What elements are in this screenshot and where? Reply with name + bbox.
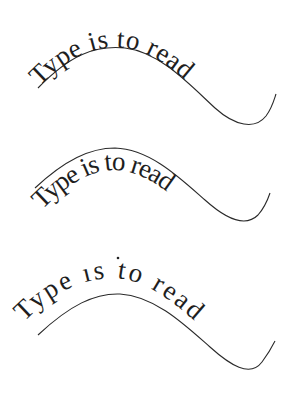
example-2: Type is to read [25,146,270,221]
curved-text-2: Type is to read [25,146,181,214]
curved-text-1: Type is to read [23,23,201,90]
curve-path-3 [38,294,275,369]
curved-text-3: Type ıs to read [7,254,212,327]
example-3: Type ıs to read [7,254,275,369]
text-on-path-diagram: Type is to read Type is to read Type ıs … [0,0,291,396]
stray-dot [117,257,120,260]
example-1: Type is to read [23,23,276,124]
